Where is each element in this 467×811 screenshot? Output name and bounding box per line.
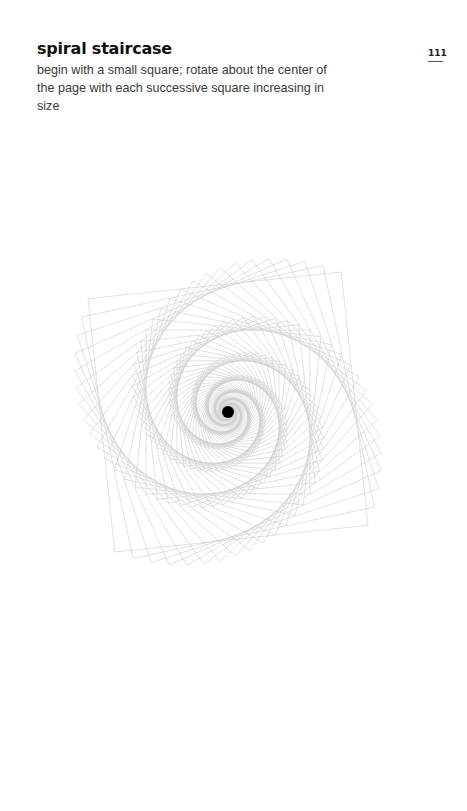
page-description: begin with a small square; rotate about … (37, 61, 337, 115)
page-number-rule (428, 61, 443, 62)
page-title: spiral staircase (37, 39, 172, 58)
spiral-staircase-artwork (0, 0, 467, 811)
center-dot (222, 406, 234, 418)
page-number: 111 (428, 48, 447, 58)
